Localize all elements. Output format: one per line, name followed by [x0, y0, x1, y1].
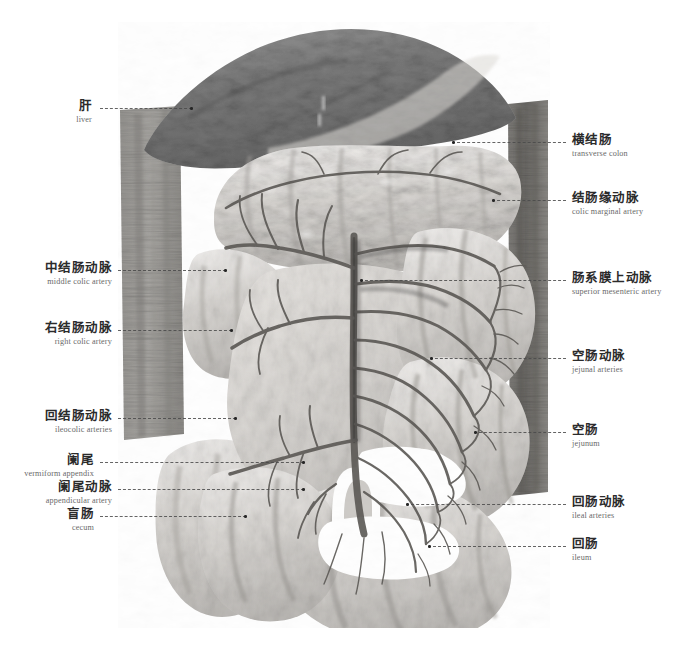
label-colic-marginal-artery-cn: 结肠缘动脉 — [572, 192, 643, 205]
label-ileal-arteries: 回肠动脉 ileal arteries — [572, 496, 626, 520]
leader-line-sma — [360, 280, 566, 281]
label-liver: 肝 liver — [0, 100, 92, 124]
anatomy-plate: 肝 liver 中结肠动脉 middle colic artery 右结肠动脉 … — [0, 0, 684, 666]
label-appendicular-artery-cn: 阑尾动脉 — [0, 481, 112, 494]
leader-dot-ileum — [428, 545, 431, 548]
leader-line-ileum — [428, 546, 566, 547]
label-ileal-arteries-cn: 回肠动脉 — [572, 496, 626, 509]
leader-line-jejunal — [430, 358, 566, 359]
leader-dot-ileal — [406, 503, 409, 506]
specimen-photograph — [118, 22, 550, 628]
label-vermiform-appendix-en: vermiform appendix — [0, 470, 94, 478]
leader-dot-transverse-colon — [452, 141, 455, 144]
leader-dot-liver — [190, 107, 193, 110]
label-right-colic-artery-cn: 右结肠动脉 — [0, 322, 112, 335]
label-middle-colic-artery: 中结肠动脉 middle colic artery — [0, 262, 112, 286]
leader-dot-sma — [360, 279, 363, 282]
leader-dot-appendicular — [302, 488, 305, 491]
label-ileum-cn: 回肠 — [572, 538, 599, 551]
label-ileum: 回肠 ileum — [572, 538, 599, 562]
label-vermiform-appendix-cn: 阑尾 — [0, 454, 94, 467]
label-appendicular-artery: 阑尾动脉 appendicular artery — [0, 481, 112, 505]
label-superior-mesenteric-artery: 肠系膜上动脉 superior mesenteric artery — [572, 272, 661, 296]
leader-dot-jejunal — [430, 357, 433, 360]
label-ileocolic-arteries: 回结肠动脉 ileocolic arteries — [0, 410, 112, 434]
label-ileocolic-arteries-en: ileocolic arteries — [0, 426, 112, 434]
label-jejunal-arteries-en: jejunal arteries — [572, 366, 626, 374]
leader-line-jejunum — [474, 432, 566, 433]
label-superior-mesenteric-artery-en: superior mesenteric artery — [572, 288, 661, 296]
label-liver-en: liver — [0, 116, 92, 124]
leader-line-middle-colic — [118, 270, 226, 271]
leader-line-ileocolic — [118, 418, 236, 419]
leader-line-cecum — [100, 516, 246, 517]
label-jejunal-arteries-cn: 空肠动脉 — [572, 350, 626, 363]
label-liver-cn: 肝 — [0, 100, 92, 113]
label-jejunum-en: jejunum — [572, 440, 600, 448]
leader-line-colic-marginal — [492, 200, 566, 201]
label-transverse-colon: 横结肠 transverse colon — [572, 134, 628, 158]
label-superior-mesenteric-artery-cn: 肠系膜上动脉 — [572, 272, 661, 285]
leader-line-transverse-colon — [452, 142, 566, 143]
leader-line-appendix — [100, 462, 304, 463]
leader-line-appendicular — [118, 489, 304, 490]
leader-dot-appendix — [302, 461, 305, 464]
leader-line-ileal — [406, 504, 566, 505]
label-transverse-colon-cn: 横结肠 — [572, 134, 628, 147]
label-ileal-arteries-en: ileal arteries — [572, 512, 626, 520]
label-middle-colic-artery-cn: 中结肠动脉 — [0, 262, 112, 275]
leader-line-right-colic — [118, 330, 232, 331]
label-ileocolic-arteries-cn: 回结肠动脉 — [0, 410, 112, 423]
label-right-colic-artery: 右结肠动脉 right colic artery — [0, 322, 112, 346]
label-appendicular-artery-en: appendicular artery — [0, 497, 112, 505]
leader-dot-colic-marginal — [492, 199, 495, 202]
label-jejunal-arteries: 空肠动脉 jejunal arteries — [572, 350, 626, 374]
label-colic-marginal-artery: 结肠缘动脉 colic marginal artery — [572, 192, 643, 216]
leader-dot-ileocolic — [234, 417, 237, 420]
leader-line-liver — [100, 108, 192, 109]
label-cecum-en: cecum — [0, 524, 94, 532]
label-jejunum: 空肠 jejunum — [572, 424, 600, 448]
label-colic-marginal-artery-en: colic marginal artery — [572, 208, 643, 216]
label-cecum: 盲肠 cecum — [0, 508, 94, 532]
label-transverse-colon-en: transverse colon — [572, 150, 628, 158]
label-jejunum-cn: 空肠 — [572, 424, 600, 437]
leader-dot-jejunum — [474, 431, 477, 434]
label-middle-colic-artery-en: middle colic artery — [0, 278, 112, 286]
leader-dot-middle-colic — [224, 269, 227, 272]
label-right-colic-artery-en: right colic artery — [0, 338, 112, 346]
leader-dot-right-colic — [230, 329, 233, 332]
label-ileum-en: ileum — [572, 554, 599, 562]
label-vermiform-appendix: 阑尾 vermiform appendix — [0, 454, 94, 478]
leader-dot-cecum — [244, 515, 247, 518]
label-cecum-cn: 盲肠 — [0, 508, 94, 521]
